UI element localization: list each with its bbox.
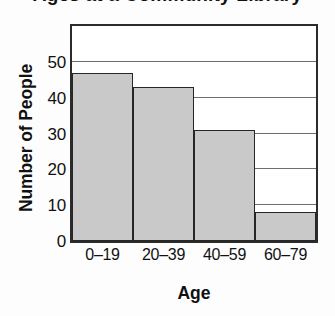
y-tick-label-0: 0 xyxy=(36,233,66,250)
y-tick-label-30: 30 xyxy=(36,125,66,142)
y-tick-label-40: 40 xyxy=(36,89,66,106)
x-axis-title: Age xyxy=(70,283,318,304)
y-tick-label-50: 50 xyxy=(36,53,66,70)
plot-inner xyxy=(72,26,316,241)
x-tick-label-20–39: 20–39 xyxy=(142,247,185,263)
bar-40–59 xyxy=(194,130,255,241)
bar-0–19 xyxy=(72,73,133,241)
bar-20–39 xyxy=(133,87,194,241)
y-axis-tick-labels: 01020304050 xyxy=(34,0,66,316)
gridline-50 xyxy=(72,61,316,62)
plot-area xyxy=(70,24,318,243)
x-axis-tick-labels: 0–1920–3940–5960–79 xyxy=(70,247,318,271)
x-tick-label-40–59: 40–59 xyxy=(203,247,246,263)
histogram-figure: Ages at a Community Library Number of Pe… xyxy=(0,0,335,316)
y-tick-label-20: 20 xyxy=(36,161,66,178)
y-tick-label-10: 10 xyxy=(36,197,66,214)
chart-title: Ages at a Community Library xyxy=(33,0,302,6)
bar-60–79 xyxy=(255,212,316,241)
x-tick-label-0–19: 0–19 xyxy=(85,247,119,263)
x-tick-label-60–79: 60–79 xyxy=(264,247,307,263)
